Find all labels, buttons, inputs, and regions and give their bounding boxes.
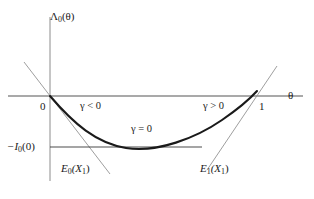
annotation-tangent-e1-label: E1(X1) [200, 163, 229, 176]
y-tick-label-argument: (0) [22, 140, 35, 152]
x-axis-label: θ [288, 90, 293, 101]
x-tick-label-0: 0 [40, 101, 46, 112]
tangent-e1-base: E [200, 162, 207, 174]
y-tick-label-base: −I [7, 140, 18, 152]
annotation-gamma-zero: γ = 0 [131, 124, 152, 135]
figure-container: Λ0(θ) θ 0 1 −I0(0) γ < 0 γ = 0 γ > 0 E0(… [0, 0, 314, 199]
tangent-line-e0 [24, 62, 110, 174]
tangent-e0-arg-close: ) [86, 162, 90, 174]
tangent-line-e1 [207, 66, 277, 170]
tangent-e1-arg-close: ) [225, 162, 229, 174]
annotation-gamma-positive: γ > 0 [203, 101, 224, 112]
annotation-gamma-negative: γ < 0 [80, 101, 101, 112]
x-tick-label-1: 1 [259, 101, 265, 112]
y-axis-label-base: Λ [50, 10, 58, 22]
tangent-e1-arg-base: (X [211, 162, 221, 174]
y-axis-label: Λ0(θ) [50, 11, 75, 24]
y-tick-label-minus-i0: −I0(0) [7, 141, 35, 154]
annotation-tangent-e0-label: E0(X1) [61, 163, 90, 176]
plot-canvas [0, 0, 314, 199]
y-axis-label-argument: (θ) [62, 10, 75, 22]
tangent-e0-arg-base: (X [72, 162, 82, 174]
tangent-e0-base: E [61, 162, 68, 174]
